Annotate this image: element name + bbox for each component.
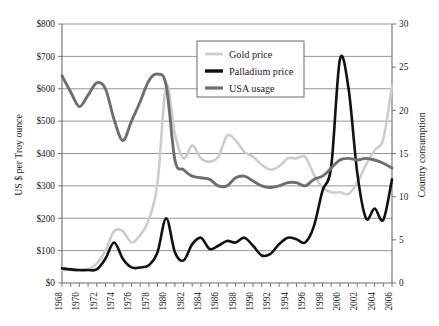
y-axis-left-tick-label: $500 [36, 116, 55, 126]
x-axis-tick-label: 1972 [89, 292, 99, 311]
x-axis-tick-label: 1976 [123, 292, 133, 311]
x-axis-tick-label: 1984 [193, 292, 203, 311]
y-axis-right-tick-label: 20 [399, 106, 409, 116]
y-axis-right-ticks: 051015202530 [392, 19, 409, 288]
y-axis-right-tick-label: 30 [399, 19, 409, 29]
y-axis-right-tick-label: 0 [399, 278, 404, 288]
line-chart: $0$100$200$300$400$500$600$700$800 05101… [0, 0, 439, 326]
y-axis-left-tick-label: $800 [36, 19, 55, 29]
x-axis-tick-label: 2002 [349, 292, 359, 311]
y-axis-right-tick-label: 15 [399, 149, 409, 159]
y-axis-right-tick-label: 10 [399, 192, 409, 202]
x-axis-tick-label: 1968 [54, 292, 64, 311]
x-axis-tick-label: 1986 [210, 292, 220, 311]
legend-label-palladium-price: Palladium price [229, 66, 294, 77]
x-axis-tick-label: 1970 [71, 292, 81, 311]
x-axis-tick-label: 1980 [158, 292, 168, 311]
x-axis-tick-label: 1994 [280, 292, 290, 311]
x-axis-tick-label: 1992 [262, 292, 272, 311]
y-axis-left-tick-label: $100 [36, 246, 55, 256]
y-axis-left-title: US $ per Troy ounce [13, 114, 24, 196]
legend-label-usa-usage: USA usage [229, 83, 275, 94]
x-axis-tick-label: 1990 [245, 292, 255, 311]
x-axis-ticks: 1968197019721974197619781980198219841986… [54, 283, 394, 311]
y-axis-left-tick-label: $600 [36, 84, 55, 94]
x-axis-tick-label: 1996 [297, 292, 307, 311]
x-axis-tick-label: 1978 [141, 292, 151, 311]
x-axis-tick-label: 1974 [106, 292, 116, 311]
y-axis-right-tick-label: 25 [399, 62, 409, 72]
x-axis-tick-label: 1982 [176, 292, 186, 311]
legend-label-gold-price: Gold price [229, 49, 273, 60]
y-axis-left-tick-label: $700 [36, 52, 55, 62]
y-axis-left-tick-label: $0 [46, 278, 56, 288]
x-axis-tick-label: 2004 [367, 292, 377, 311]
chart-legend: Gold pricePalladium priceUSA usage [197, 41, 304, 97]
y-axis-left-tick-label: $400 [36, 149, 55, 159]
y-axis-left-tick-label: $300 [36, 181, 55, 191]
chart-container: $0$100$200$300$400$500$600$700$800 05101… [0, 0, 439, 326]
x-axis-tick-label: 2006 [384, 292, 394, 311]
x-axis-tick-label: 1998 [315, 292, 325, 311]
x-axis-tick-label: 2000 [332, 292, 342, 311]
y-axis-left-tick-label: $200 [36, 214, 55, 224]
y-axis-left-ticks: $0$100$200$300$400$500$600$700$800 [36, 19, 62, 288]
y-axis-right-tick-label: 5 [399, 235, 404, 245]
y-axis-right-title: Country consumption [416, 112, 427, 197]
x-axis-tick-label: 1988 [228, 292, 238, 311]
